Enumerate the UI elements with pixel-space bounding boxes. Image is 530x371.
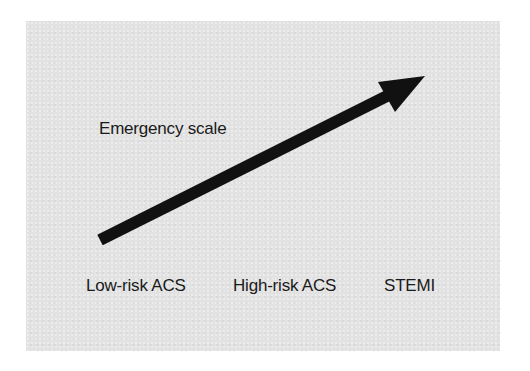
- level-stemi: STEMI: [384, 276, 435, 296]
- scale-title: Emergency scale: [99, 119, 226, 139]
- level-high-risk-acs: High-risk ACS: [233, 276, 336, 296]
- level-low-risk-acs: Low-risk ACS: [86, 276, 186, 296]
- escalation-arrow-icon: [0, 0, 530, 371]
